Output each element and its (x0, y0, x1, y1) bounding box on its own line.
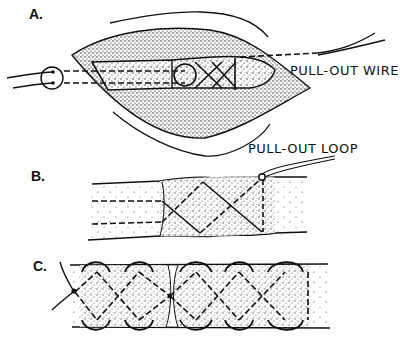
tendon-suture-diagram: A. PULL-OUT WIRE (0, 0, 410, 339)
panel-a-label: A. (29, 6, 43, 22)
tendon-distal (172, 56, 275, 88)
skin-button (41, 67, 63, 89)
panel-c: C. (33, 258, 330, 330)
panel-c-label: C. (33, 258, 47, 274)
pull-out-wire-end-1 (318, 33, 375, 53)
tendon-c-top-edge (70, 264, 328, 265)
pull-out-wire-label: PULL-OUT WIRE (290, 63, 399, 78)
suture-tail-lower (52, 292, 73, 310)
pull-out-wire-end-2 (318, 40, 385, 55)
tendon-proximal (92, 60, 179, 90)
panel-b: B. PULL-OUT LOOP (31, 141, 358, 240)
knot-junction (168, 294, 173, 299)
pull-out-loop-label: PULL-OUT LOOP (248, 141, 358, 156)
tendon-c-bottom-edge (72, 327, 330, 328)
panel-b-label: B. (31, 168, 45, 184)
panel-a: A. PULL-OUT WIRE (7, 6, 399, 156)
pull-out-loop-wire-1 (262, 156, 335, 174)
tendon-stump-proximal (80, 265, 170, 327)
pull-out-loop (259, 174, 265, 180)
